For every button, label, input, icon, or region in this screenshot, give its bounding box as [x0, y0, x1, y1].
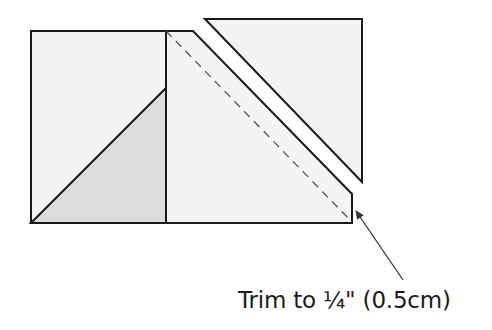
pointer-arrow-icon	[356, 211, 403, 280]
quilt-trim-diagram	[0, 0, 492, 330]
trim-caption: Trim to ¼" (0.5cm)	[238, 287, 451, 313]
